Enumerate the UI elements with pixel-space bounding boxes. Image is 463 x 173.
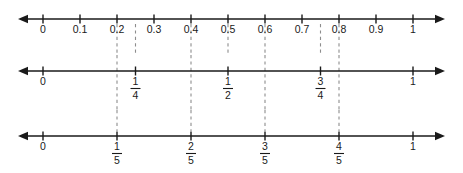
fraction-denominator: 2 (225, 89, 231, 101)
fraction-denominator: 4 (133, 89, 139, 101)
number-lines-canvas: 00.10.20.30.40.50.60.70.80.9101412341015… (0, 0, 463, 173)
fraction-denominator: 5 (336, 154, 342, 166)
number-line-fourths: 01412341 (18, 55, 445, 110)
arrow-head-right (435, 132, 445, 141)
tick-label: 0.6 (258, 23, 273, 35)
tick-label: 0 (40, 23, 46, 35)
arrow-head-left (18, 132, 28, 141)
tick-label: 1 (410, 23, 416, 35)
tick-label: 0.7 (295, 23, 310, 35)
tick-label: 0.3 (147, 23, 162, 35)
tick-label: 0.1 (73, 23, 88, 35)
tick-label: 0.8 (332, 23, 347, 35)
tick-label: 0.5 (221, 23, 236, 35)
tick-label: 0 (40, 140, 46, 152)
number-line-decimals: 00.10.20.30.40.50.60.70.80.91 (18, 15, 445, 56)
fraction-denominator: 5 (188, 154, 194, 166)
fraction-numerator: 3 (262, 140, 268, 152)
fraction-numerator: 2 (188, 140, 194, 152)
tick-label: 0.9 (369, 23, 384, 35)
fraction-denominator: 4 (318, 89, 324, 101)
fraction-numerator: 1 (133, 75, 139, 87)
arrow-head-right (435, 67, 445, 76)
fraction-denominator: 5 (114, 154, 120, 166)
fraction-numerator: 4 (336, 140, 342, 152)
arrow-head-left (18, 67, 28, 76)
fraction-numerator: 1 (114, 140, 120, 152)
tick-label: 0.4 (184, 23, 199, 35)
fraction-numerator: 3 (318, 75, 324, 87)
number-line-fifths: 0152535451 (18, 110, 445, 166)
fraction-denominator: 5 (262, 154, 268, 166)
tick-label: 0.2 (110, 23, 125, 35)
fraction-numerator: 1 (225, 75, 231, 87)
tick-label: 1 (410, 140, 416, 152)
tick-label: 0 (40, 75, 46, 87)
number-line-figure: 00.10.20.30.40.50.60.70.80.9101412341015… (0, 0, 463, 173)
arrow-head-right (435, 15, 445, 24)
tick-label: 1 (410, 75, 416, 87)
arrow-head-left (18, 15, 28, 24)
